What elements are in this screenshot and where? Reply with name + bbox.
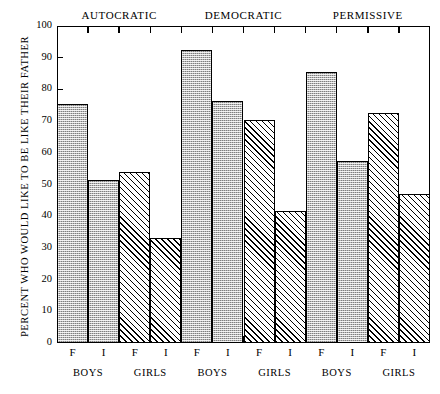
group-header-democratic: DEMOCRATIC <box>181 9 305 21</box>
x-tick-label: F <box>120 346 150 358</box>
bar-permissive-boys-i <box>337 161 368 343</box>
y-tick-label: 50 <box>20 179 52 190</box>
y-tick-label: 60 <box>20 147 52 158</box>
bar-permissive-girls-i <box>399 194 430 343</box>
y-tick-label: 100 <box>20 20 52 31</box>
x-tick-label: F <box>368 346 398 358</box>
bar-democratic-girls-i <box>275 211 306 343</box>
y-tick-label: 30 <box>20 242 52 253</box>
y-tick-label: 0 <box>20 337 52 348</box>
y-tick-label: 80 <box>20 83 52 94</box>
bar-permissive-girls-f <box>368 113 399 343</box>
x-tick-label: I <box>213 346 243 358</box>
x-tick-label: I <box>399 346 429 358</box>
x-tick-label: I <box>89 346 119 358</box>
bars-layer <box>57 26 430 343</box>
bar-autocratic-girls-i <box>150 238 181 343</box>
x-tick-label: F <box>182 346 212 358</box>
bar-democratic-girls-f <box>244 120 275 343</box>
x-tick-label: F <box>306 346 336 358</box>
x-tick-label: I <box>337 346 367 358</box>
bar-autocratic-girls-f <box>119 172 150 343</box>
bar-autocratic-boys-f <box>57 104 88 343</box>
group-header-permissive: PERMISSIVE <box>306 9 430 21</box>
x-tick-label: F <box>58 346 88 358</box>
bar-democratic-boys-i <box>212 101 243 344</box>
bar-chart: PERCENT WHO WOULD LIKE TO BE LIKE THEIR … <box>0 0 440 394</box>
x-subgroup-label-girls: GIRLS <box>359 367 439 378</box>
x-tick-label: F <box>244 346 274 358</box>
y-tick-label: 70 <box>20 115 52 126</box>
bar-democratic-boys-f <box>181 50 212 343</box>
bar-autocratic-boys-i <box>88 180 119 343</box>
y-tick-label: 10 <box>20 305 52 316</box>
y-tick-label: 90 <box>20 52 52 63</box>
y-tick-label: 40 <box>20 210 52 221</box>
x-tick-label: I <box>275 346 305 358</box>
bar-permissive-boys-f <box>306 72 337 343</box>
group-header-autocratic: AUTOCRATIC <box>57 9 181 21</box>
y-tick-label: 20 <box>20 274 52 285</box>
x-tick-label: I <box>151 346 181 358</box>
